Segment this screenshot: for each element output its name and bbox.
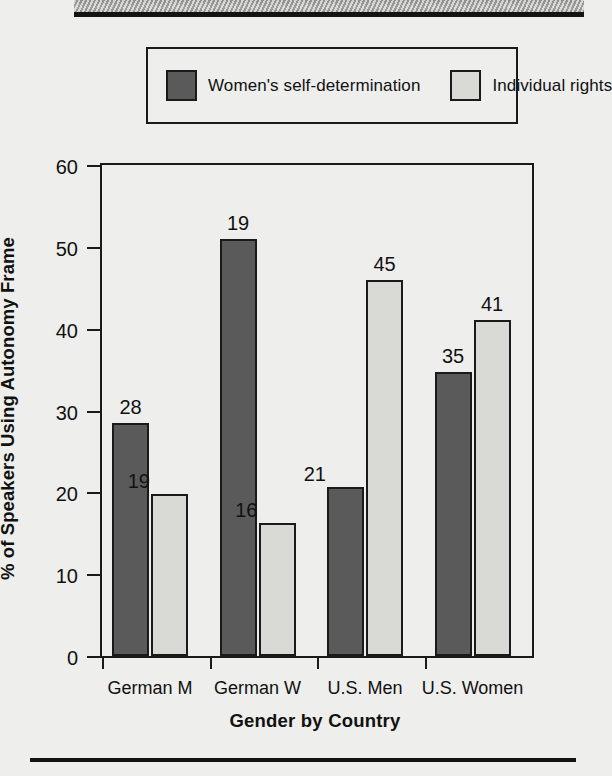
y-axis-title: % of Speakers Using Autonomy Frame — [0, 163, 22, 654]
x-axis-category-label: U.S. Women — [422, 678, 524, 699]
legend-swatch-womens-self-determination — [166, 70, 197, 101]
x-axis-tick — [317, 656, 319, 669]
bar-value-label: 19 — [128, 470, 150, 493]
y-axis-tick: 20 — [87, 492, 102, 494]
bar-value-label: 35 — [442, 345, 464, 368]
y-axis-tick: 30 — [87, 411, 102, 413]
bar-german-m-series-1: 19 — [151, 494, 188, 656]
y-axis-tick-label: 10 — [56, 565, 78, 588]
bar-u-s-men-series-1: 45 — [366, 280, 403, 656]
bar-value-label: 21 — [304, 463, 326, 486]
bar-u-s-women-series-1: 41 — [474, 320, 511, 656]
x-axis-tick — [210, 656, 212, 669]
y-axis-tick: 50 — [87, 247, 102, 249]
x-axis-tick — [425, 656, 427, 669]
chart-plot-area: 01020304050602819German M1916German W214… — [102, 165, 532, 656]
y-axis-tick: 60 — [87, 165, 102, 167]
x-axis-category-label: German M — [107, 678, 192, 699]
y-axis-tick-label: 0 — [67, 647, 78, 670]
bar-value-label: 28 — [119, 396, 141, 419]
bar-german-w-series-1: 16 — [259, 523, 296, 656]
y-axis-tick-label: 50 — [56, 237, 78, 260]
bar-value-label: 19 — [227, 212, 249, 235]
bar-german-w-series-0: 19 — [220, 239, 257, 656]
y-axis-tick-label: 20 — [56, 483, 78, 506]
y-axis-tick-label: 40 — [56, 319, 78, 342]
x-axis-category-label: U.S. Men — [327, 678, 402, 699]
y-axis-tick-label: 30 — [56, 401, 78, 424]
x-axis-origin-tick — [102, 656, 104, 669]
legend-swatch-individual-rights — [450, 70, 481, 101]
page-rule-top — [74, 12, 584, 17]
bar-value-label: 41 — [481, 293, 503, 316]
bar-german-m-series-0: 28 — [112, 423, 149, 656]
chart-legend: Women's self-determination Individual ri… — [146, 47, 518, 124]
bar-u-s-men-series-0: 21 — [327, 487, 364, 656]
x-axis-category-label: German W — [214, 678, 301, 699]
y-axis-tick: 40 — [87, 329, 102, 331]
legend-entry-womens-self-determination: Women's self-determination — [166, 70, 420, 101]
bar-u-s-women-series-0: 35 — [435, 372, 472, 656]
page-rule-bottom — [30, 758, 576, 762]
legend-entry-individual-rights: Individual rights — [450, 70, 612, 101]
chart-plot-frame: 01020304050602819German M1916German W214… — [100, 163, 534, 658]
y-axis-tick: 10 — [87, 574, 102, 576]
legend-label-womens-self-determination: Women's self-determination — [208, 76, 420, 96]
legend-label-individual-rights: Individual rights — [492, 76, 612, 96]
y-axis-tick: 0 — [87, 656, 102, 658]
bar-value-label: 45 — [373, 253, 395, 276]
bar-value-label: 16 — [235, 499, 257, 522]
x-axis-title: Gender by Country — [100, 710, 530, 732]
y-axis-tick-label: 60 — [56, 156, 78, 179]
